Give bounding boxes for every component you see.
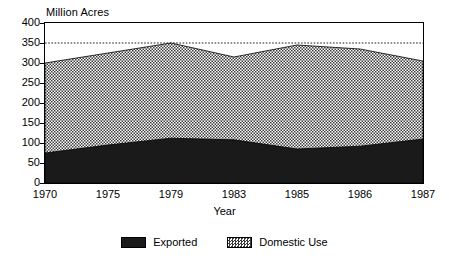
x-tick-label-1970: 1970: [33, 189, 57, 200]
x-tick-label-1983: 1983: [222, 189, 246, 200]
y-tick-label-150: 150: [6, 117, 40, 128]
y-tick-mark: [40, 163, 44, 164]
x-tick-label-1986: 1986: [348, 189, 372, 200]
x-tick-label-1975: 1975: [96, 189, 120, 200]
x-tick-label-1979: 1979: [159, 189, 183, 200]
y-tick-mark: [40, 23, 44, 24]
y-tick-mark: [40, 143, 44, 144]
y-axis-ticks: 050100150200250300350400: [0, 0, 40, 265]
legend-item-exported: Exported: [121, 236, 197, 248]
x-tick-label-1985: 1985: [285, 189, 309, 200]
y-tick-label-250: 250: [6, 77, 40, 88]
chart-legend: Exported Domestic Use: [0, 236, 449, 248]
y-tick-label-350: 350: [6, 37, 40, 48]
legend-item-domestic-use: Domestic Use: [227, 236, 327, 248]
plot-area: [44, 22, 424, 184]
legend-label-exported: Exported: [153, 236, 197, 248]
y-axis-title: Million Acres: [46, 6, 109, 18]
y-tick-mark: [40, 63, 44, 64]
y-tick-label-300: 300: [6, 57, 40, 68]
y-tick-mark: [40, 123, 44, 124]
stacked-area-chart: Million Acres 050100150200250300350400 1…: [0, 0, 449, 265]
y-tick-mark: [40, 183, 44, 184]
hatched-swatch: [227, 237, 252, 248]
solid-black-swatch: [121, 237, 146, 248]
y-tick-label-100: 100: [6, 137, 40, 148]
y-tick-label-0: 0: [6, 177, 40, 188]
legend-label-domestic-use: Domestic Use: [259, 236, 327, 248]
y-tick-mark: [40, 43, 44, 44]
y-tick-label-400: 400: [6, 17, 40, 28]
y-tick-mark: [40, 83, 44, 84]
plot-svg: [45, 23, 423, 183]
x-axis-title: Year: [0, 205, 449, 217]
y-tick-label-50: 50: [6, 157, 40, 168]
y-tick-label-200: 200: [6, 97, 40, 108]
x-tick-label-1987: 1987: [411, 189, 435, 200]
y-tick-mark: [40, 103, 44, 104]
